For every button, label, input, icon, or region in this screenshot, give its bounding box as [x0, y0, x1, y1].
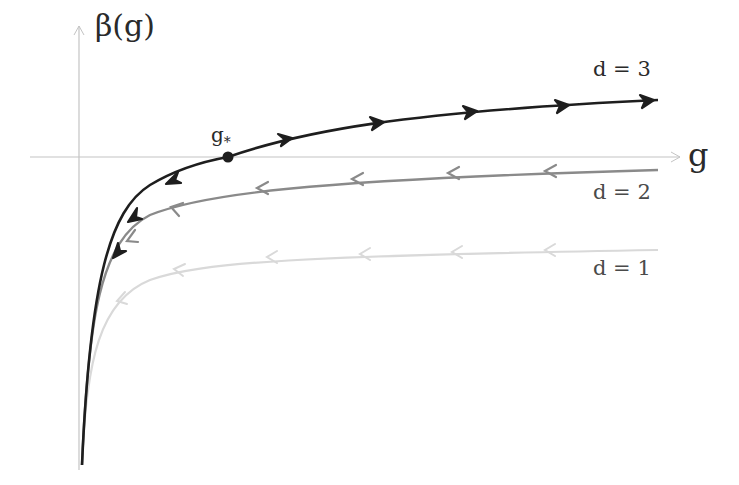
- y-axis-label: β(g): [95, 8, 155, 43]
- fixed-point-label: g*: [211, 123, 231, 150]
- curve-label-d2: d = 2: [593, 180, 651, 204]
- flow-arrows-d3: [113, 95, 654, 258]
- curve-d3: [82, 95, 658, 465]
- fixed-point-marker: [223, 152, 234, 163]
- curve-label-d1: d = 1: [593, 256, 651, 280]
- curve-label-d3: d = 3: [593, 57, 651, 81]
- curve-d1: [82, 244, 658, 465]
- curve-d2: [82, 165, 658, 465]
- fixed-point-subscript: *: [224, 134, 231, 150]
- fixed-point-symbol: g: [211, 123, 224, 147]
- x-axis-label: g: [688, 136, 708, 174]
